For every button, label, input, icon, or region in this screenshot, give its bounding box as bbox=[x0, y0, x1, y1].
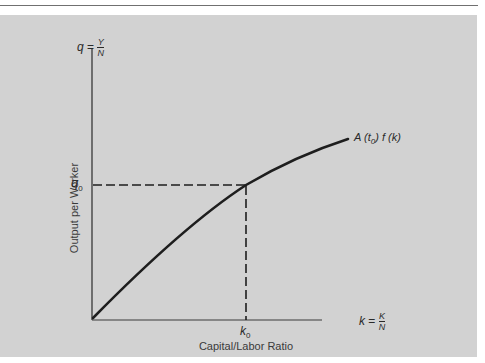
x-axis-title: Capital/Labor Ratio bbox=[199, 340, 293, 352]
y-axis-symbol: q = YN bbox=[77, 37, 104, 58]
k0-label: k0 bbox=[240, 324, 250, 340]
q0-label: q0 bbox=[71, 175, 83, 193]
curve-label: A (t0) f (k) bbox=[354, 131, 401, 146]
x-axis-symbol: k = KN bbox=[359, 311, 385, 332]
production-curve bbox=[93, 139, 348, 318]
